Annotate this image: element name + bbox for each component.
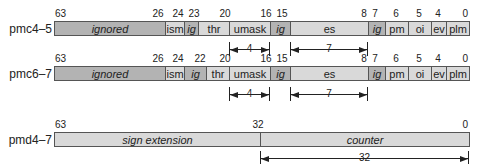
bit-label: 22 <box>194 53 205 64</box>
bit-label: 16 <box>260 8 271 19</box>
field-umask: umask <box>230 22 271 35</box>
field-pm: pm <box>386 22 409 35</box>
field-pm: pm <box>386 67 409 80</box>
field-counter: counter <box>261 133 469 146</box>
bit-label: 0 <box>462 53 468 64</box>
bit-label: 20 <box>219 53 230 64</box>
bit-label: 8 <box>361 8 367 19</box>
bit-label: 24 <box>172 8 183 19</box>
register-name: pmd4–7 <box>2 133 52 147</box>
register-box: ignored ism ig thr umask ig es ig pm oi … <box>54 21 470 36</box>
register-name: pmc6–7 <box>2 67 52 81</box>
bit-label: 7 <box>372 8 378 19</box>
field-sign-extension: sign extension <box>55 133 261 146</box>
field-ism: ism <box>166 67 185 80</box>
field-thr: thr <box>207 67 230 80</box>
bit-label: 6 <box>393 8 399 19</box>
bit-label: 20 <box>219 8 230 19</box>
bit-label: 0 <box>462 119 468 130</box>
field-ig: ig <box>369 22 386 35</box>
field-ig: ig <box>369 67 386 80</box>
field-ignored: ignored <box>55 67 166 80</box>
bit-label: 8 <box>361 53 367 64</box>
dimension-umask: 4 <box>229 89 270 101</box>
field-oi: oi <box>409 67 432 80</box>
bit-label: 4 <box>435 8 441 19</box>
field-oi: oi <box>409 22 432 35</box>
field-ig: ig <box>271 22 291 35</box>
bit-label: 15 <box>276 53 287 64</box>
dimension-label: 7 <box>290 88 368 99</box>
register-box: ignored ism ig thr umask ig es ig pm oi … <box>54 66 470 81</box>
dimension-es: 7 <box>290 89 368 101</box>
dimension-label: 4 <box>229 88 270 99</box>
bit-label: 5 <box>416 53 422 64</box>
bit-label: 24 <box>172 53 183 64</box>
register-name: pmc4–5 <box>2 22 52 36</box>
field-ev: ev <box>432 22 447 35</box>
field-es: es <box>291 22 369 35</box>
field-es: es <box>291 67 369 80</box>
bit-label: 16 <box>260 53 271 64</box>
bit-label: 7 <box>372 53 378 64</box>
bit-label: 26 <box>152 8 163 19</box>
bit-label: 63 <box>55 119 66 130</box>
dimension-es: 7 <box>290 44 368 56</box>
bit-label: 0 <box>462 8 468 19</box>
dimension-label: 7 <box>290 43 368 54</box>
field-thr: thr <box>199 22 230 35</box>
field-ig: ig <box>185 22 199 35</box>
field-plm: plm <box>447 67 469 80</box>
bit-label: 32 <box>252 119 263 130</box>
field-ism: ism <box>166 22 185 35</box>
register-box: sign extension counter <box>54 132 470 147</box>
dimension-label: 32 <box>260 152 469 163</box>
bit-label: 5 <box>416 8 422 19</box>
field-ignored: ignored <box>55 22 166 35</box>
bit-label: 4 <box>435 53 441 64</box>
bit-label: 63 <box>55 53 66 64</box>
bit-label: 26 <box>152 53 163 64</box>
bit-label: 15 <box>276 8 287 19</box>
dimension-counter: 32 <box>260 153 469 164</box>
bit-label: 63 <box>55 8 66 19</box>
field-ig: ig <box>185 67 207 80</box>
field-umask: umask <box>230 67 271 80</box>
bit-label: 6 <box>393 53 399 64</box>
bit-label: 23 <box>188 8 199 19</box>
field-ig: ig <box>271 67 291 80</box>
field-plm: plm <box>447 22 469 35</box>
field-ev: ev <box>432 67 447 80</box>
